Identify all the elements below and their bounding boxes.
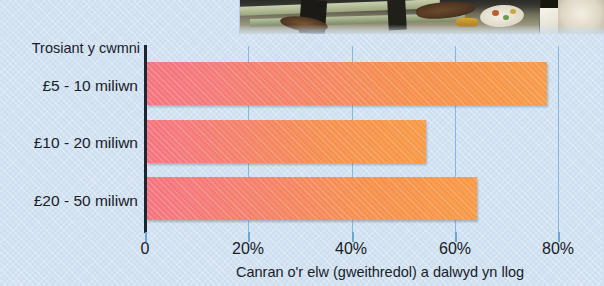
category-label-0: £5 - 10 miliwn [0,77,138,95]
bar-series-2 [147,177,477,220]
tick-label-80: 80% [528,240,588,258]
tick-label-60: 60% [425,240,485,258]
gridline-80 [558,46,559,235]
category-label-1: £10 - 20 miliwn [0,134,138,152]
tick-label-0: 0 [125,240,165,258]
bar-series-0 [147,62,547,105]
category-label-2: £20 - 50 miliwn [0,192,138,210]
y-axis-title: Trosiant y cwmni [6,40,140,56]
tick-label-40: 40% [321,240,381,258]
tick-label-20: 20% [218,240,278,258]
x-axis-title: Canran o'r elw (gweithredol) a dalwyd yn… [160,264,600,280]
bar-series-1 [147,120,426,163]
